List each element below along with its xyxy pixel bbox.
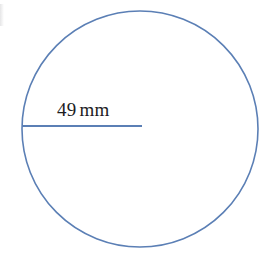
radius-unit: mm <box>79 99 109 120</box>
circle-diagram-svg <box>0 0 275 262</box>
circle-diagram-figure: 49mm <box>0 0 275 262</box>
radius-measurement-label: 49mm <box>57 99 109 120</box>
scan-edge-artifact <box>0 4 4 26</box>
radius-value: 49 <box>57 99 76 120</box>
circle-outline <box>22 11 258 247</box>
